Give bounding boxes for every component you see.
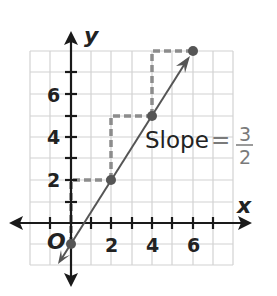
line-arrow-up <box>176 56 190 73</box>
x-tick-2: 2 <box>105 234 118 256</box>
origin-label: O <box>47 229 66 254</box>
x-axis-label: x <box>236 193 252 218</box>
y-tick-6: 6 <box>47 84 60 106</box>
coordinate-plane: y x O 2 4 6 2 4 6 Slope = 3 2 <box>0 0 277 296</box>
x-tick-6: 6 <box>187 234 200 256</box>
x-tick-4: 4 <box>146 234 159 256</box>
slope-numerator: 3 <box>239 123 251 145</box>
x-axis <box>18 217 243 229</box>
slope-label: Slope <box>145 127 209 153</box>
slope-equals: = <box>211 127 230 153</box>
y-tick-4: 4 <box>47 126 60 148</box>
slope-denominator: 2 <box>239 146 251 168</box>
point-0-neg1 <box>66 239 76 249</box>
y-tick-2: 2 <box>47 169 60 191</box>
y-axis-label: y <box>84 23 100 48</box>
point-6-8 <box>188 46 198 56</box>
point-2-2 <box>106 175 116 185</box>
point-4-5 <box>147 111 157 121</box>
